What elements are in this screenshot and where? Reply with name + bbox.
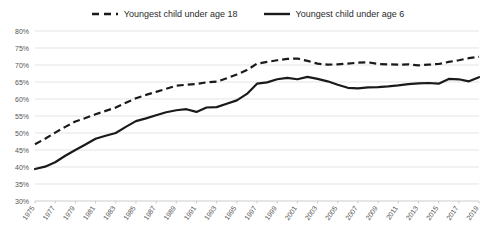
y-axis-tick-label: 70%: [15, 62, 29, 69]
x-axis-tick-label: 1991: [183, 204, 198, 221]
y-axis-tick-label: 45%: [15, 147, 29, 154]
x-axis-tick-label: 1979: [62, 204, 77, 221]
y-axis-tick-label: 30%: [15, 198, 29, 205]
y-axis-tick-label: 65%: [15, 79, 29, 86]
y-axis-tick-label: 60%: [15, 96, 29, 103]
gridlines: [35, 31, 479, 204]
x-axis-tick-label: 1989: [162, 204, 177, 221]
plot-area: 80%75%70%65%60%55%50%45%40%35%30% 197519…: [0, 0, 496, 240]
y-axis-labels: 80%75%70%65%60%55%50%45%40%35%30%: [15, 28, 29, 205]
x-axis-tick-label: 2013: [405, 204, 420, 221]
x-axis-tick-label: 2015: [425, 204, 440, 221]
x-axis-tick-label: 1975: [21, 204, 36, 221]
x-axis-tick-label: 2011: [385, 204, 399, 220]
y-axis-tick-label: 50%: [15, 130, 29, 137]
x-axis-tick-label: 1997: [243, 204, 258, 221]
series-line-under-18: [35, 57, 479, 144]
x-axis-tick-label: 2007: [344, 204, 359, 221]
line-chart: Youngest child under age 18 Youngest chi…: [0, 0, 496, 240]
series-line-under-6: [35, 77, 479, 169]
y-axis-tick-label: 55%: [15, 113, 29, 120]
x-axis-tick-label: 2019: [465, 204, 480, 221]
y-axis-tick-label: 80%: [15, 28, 29, 35]
x-axis-tick-label: 1983: [102, 204, 117, 221]
x-axis-tick-label: 2005: [324, 204, 339, 221]
data-series: [35, 57, 479, 169]
y-axis-tick-label: 40%: [15, 164, 29, 171]
x-axis-tick-label: 2003: [304, 204, 319, 221]
x-axis-tick-label: 1995: [223, 204, 238, 221]
x-axis-tick-label: 1981: [82, 204, 97, 221]
x-axis-tick-label: 1987: [142, 204, 157, 221]
x-axis-tick-label: 2001: [284, 204, 299, 221]
x-axis-tick-label: 1985: [122, 204, 137, 221]
x-axis-tick-label: 1999: [263, 204, 278, 221]
x-axis-tick-label: 1993: [203, 204, 218, 221]
plot-svg: 80%75%70%65%60%55%50%45%40%35%30% 197519…: [0, 0, 496, 240]
x-axis-tick-label: 2017: [445, 204, 460, 221]
x-axis-labels: 1975197719791981198319851987198919911993…: [21, 204, 480, 221]
x-axis-tick-label: 2009: [364, 204, 379, 221]
x-axis-tick-label: 1977: [41, 204, 56, 221]
y-axis-tick-label: 35%: [15, 181, 29, 188]
y-axis-tick-label: 75%: [15, 45, 29, 52]
